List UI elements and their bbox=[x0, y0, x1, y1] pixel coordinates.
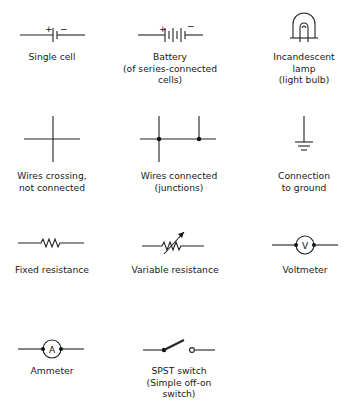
battery-label: Battery (of series-connected cells) bbox=[115, 51, 225, 86]
spst-switch-symbol bbox=[143, 335, 218, 357]
minus-sign: − bbox=[60, 24, 68, 34]
fixed-resistance-symbol bbox=[18, 236, 88, 250]
voltmeter-glyph: V bbox=[302, 241, 309, 251]
ammeter-symbol: A bbox=[18, 338, 88, 360]
battery-symbol: + − bbox=[138, 24, 208, 44]
spst-switch-label: SPST switch (Simple off-on switch) bbox=[124, 365, 234, 400]
fixed-resistance-label: Fixed resistance bbox=[0, 264, 107, 276]
variable-resistance-label: Variable resistance bbox=[120, 264, 230, 276]
voltmeter-symbol: V bbox=[272, 234, 342, 256]
wires-crossing-label: Wires crossing, not connected bbox=[0, 170, 107, 193]
wires-connected-symbol bbox=[138, 116, 218, 164]
incandescent-lamp-symbol bbox=[290, 12, 320, 47]
junction-dot bbox=[157, 137, 161, 141]
ground-label: Connection to ground bbox=[249, 170, 349, 193]
wires-connected-label: Wires connected (junctions) bbox=[124, 170, 234, 193]
single-cell-symbol: + − bbox=[20, 24, 90, 44]
single-cell-label: Single cell bbox=[0, 51, 107, 63]
figure-caption-faded bbox=[60, 400, 300, 412]
plus-sign: + bbox=[45, 24, 53, 34]
incandescent-lamp-label: Incandescent lamp (light bulb) bbox=[249, 51, 349, 86]
plus-sign: + bbox=[159, 24, 167, 34]
minus-sign: − bbox=[187, 21, 195, 31]
variable-resistance-symbol bbox=[142, 226, 212, 256]
ammeter-glyph: A bbox=[49, 345, 56, 355]
ammeter-label: Ammeter bbox=[0, 365, 107, 377]
voltmeter-label: Voltmeter bbox=[250, 264, 349, 276]
ground-symbol bbox=[290, 116, 320, 156]
junction-dot bbox=[197, 137, 201, 141]
wires-crossing-symbol bbox=[22, 116, 82, 164]
